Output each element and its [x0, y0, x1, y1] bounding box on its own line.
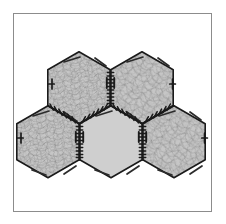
hexagonal-tiling-diagram: [0, 0, 226, 224]
figure-canvas: [0, 0, 226, 224]
